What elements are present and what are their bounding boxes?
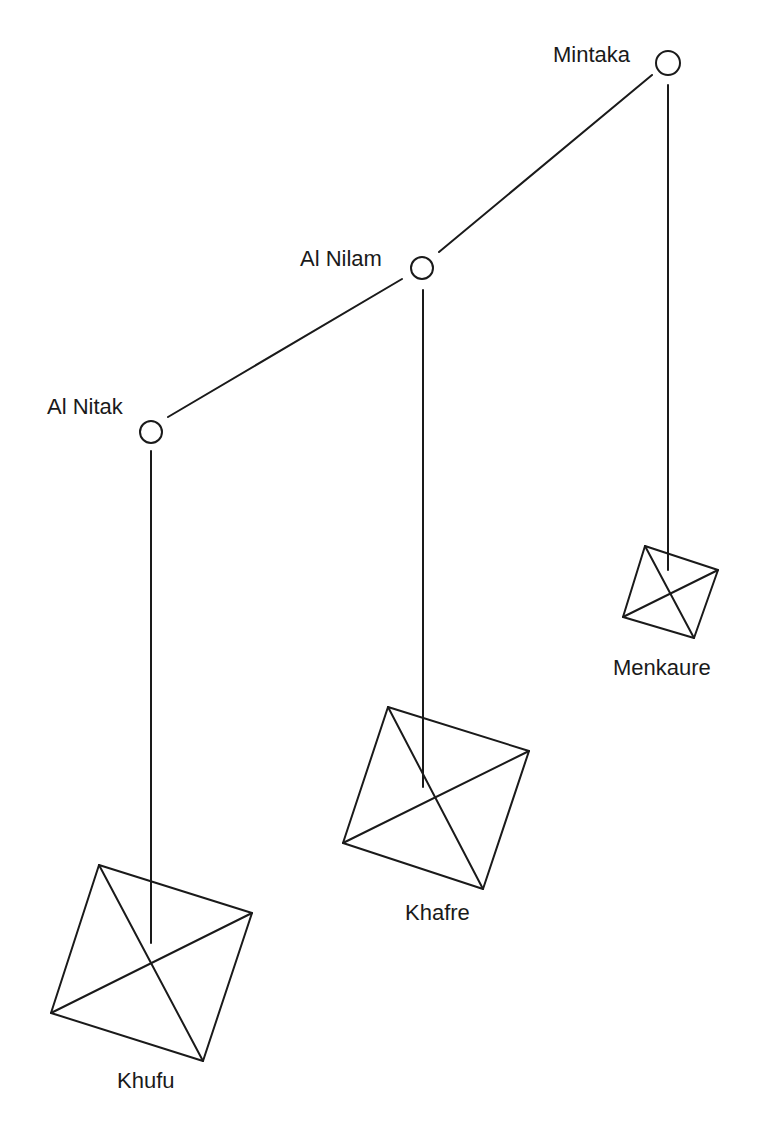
belt-line-alnilam-alnitak <box>168 279 402 417</box>
star-circle-icon <box>656 51 680 75</box>
star-label-al-nitak: Al Nitak <box>47 394 124 419</box>
star-al-nilam: Al Nilam <box>300 246 433 279</box>
star-circle-icon <box>411 257 433 279</box>
pyramid-khafre: Khafre <box>343 707 529 925</box>
pyramid-diagonal <box>343 751 529 843</box>
star-circle-icon <box>140 421 162 443</box>
pyramid-menkaure: Menkaure <box>613 546 718 680</box>
orion-pyramid-diagram: Mintaka Al Nilam Al Nitak Menkaure Khafr… <box>0 0 765 1139</box>
star-al-nitak: Al Nitak <box>47 394 162 443</box>
star-label-al-nilam: Al Nilam <box>300 246 382 271</box>
belt-line-mintaka-alnilam <box>439 75 652 252</box>
star-mintaka: Mintaka <box>553 42 680 75</box>
pyramid-label-khufu: Khufu <box>117 1068 175 1093</box>
pyramid-label-menkaure: Menkaure <box>613 655 711 680</box>
star-label-mintaka: Mintaka <box>553 42 631 67</box>
pyramid-label-khafre: Khafre <box>405 900 470 925</box>
